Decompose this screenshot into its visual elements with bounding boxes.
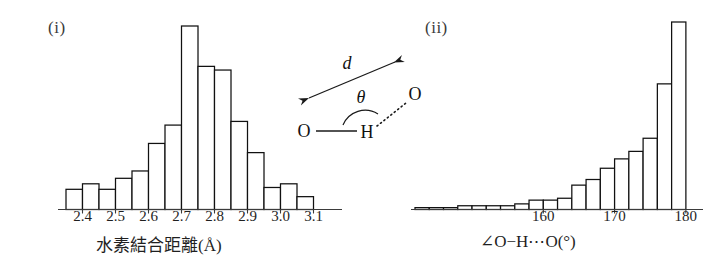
- histogram-bar: [264, 187, 281, 209]
- histogram-bar: [600, 168, 614, 209]
- h-o-hydrogen-bond-dotted-line: [377, 103, 406, 126]
- hydrogen-bond-angle-chart: [405, 0, 715, 225]
- histogram-bars-angle: [415, 22, 686, 210]
- histogram-bar: [215, 70, 232, 209]
- x-axis-tick-label: 170: [603, 208, 626, 225]
- histogram-bar: [672, 22, 686, 210]
- theta-symbol: θ: [357, 87, 366, 107]
- histogram-bar: [572, 185, 586, 209]
- x-axis-tick-label: 3.0: [271, 208, 290, 225]
- histogram-bar: [83, 184, 100, 210]
- histogram-bar: [248, 153, 265, 210]
- x-axis-tick-label: 2.9: [238, 208, 257, 225]
- histogram-bar: [116, 178, 133, 209]
- histogram-bar: [629, 151, 643, 209]
- figure-root: (i) (ii) 2.42.52.62.72.82.93.03.1 水素結合距離…: [0, 0, 717, 268]
- histogram-bar: [165, 125, 182, 209]
- x-axis-tick-label: 3.1: [304, 208, 323, 225]
- oxygen-donor-label: O: [298, 121, 311, 141]
- histogram-bar: [132, 171, 149, 210]
- x-axis-tick-label: 2.8: [205, 208, 224, 225]
- x-axis-tick-label: 180: [675, 208, 698, 225]
- histogram-bar: [657, 84, 671, 210]
- histogram-bar: [501, 206, 515, 210]
- histogram-bar: [515, 204, 529, 210]
- histogram-bar: [99, 189, 116, 209]
- histogram-bar: [182, 26, 199, 210]
- distance-double-arrow: [309, 62, 395, 98]
- histogram-bar: [472, 206, 486, 210]
- hydrogen-label: H: [361, 122, 374, 142]
- x-axis-tick-label: 2.7: [172, 208, 191, 225]
- x-axis-caption-distance: 水素結合距離(Å): [96, 231, 222, 256]
- histogram-bar: [149, 143, 166, 209]
- x-axis-tick-label: 2.5: [106, 208, 125, 225]
- histogram-bar: [558, 198, 572, 209]
- x-axis-tick-label: 2.6: [139, 208, 158, 225]
- histogram-bar: [281, 184, 298, 210]
- x-axis-tick-label: 160: [532, 208, 555, 225]
- histogram-bar: [66, 189, 83, 209]
- histogram-bar: [198, 66, 215, 209]
- x-axis-caption-angle: ∠O−H⋯O(°): [480, 231, 576, 252]
- histogram-bar: [615, 159, 629, 210]
- histogram-bar: [586, 180, 600, 210]
- histogram-bar: [231, 121, 248, 209]
- x-axis-tick-label: 2.4: [73, 208, 92, 225]
- distance-symbol: d: [343, 53, 353, 73]
- histogram-bar: [643, 138, 657, 209]
- histogram-bar: [486, 206, 500, 210]
- histogram-bar: [458, 206, 472, 210]
- histogram-bars-distance: [66, 26, 314, 210]
